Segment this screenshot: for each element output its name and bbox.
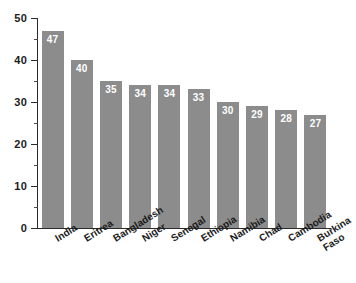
- x-axis-tick-label: Eritrea: [82, 233, 91, 244]
- x-axis-category-labels: IndiaEritreaBangladeshNigerSenegalEthiop…: [38, 231, 330, 283]
- bar-slot: 47: [38, 18, 67, 228]
- bar[interactable]: 34: [158, 85, 180, 228]
- y-axis-tick-major: [31, 186, 38, 187]
- x-axis-tick-label-line: Faso: [322, 242, 331, 253]
- bar-slot: 33: [184, 18, 213, 228]
- bar-value-label: 34: [164, 89, 176, 99]
- y-axis-tick-label: 0: [21, 222, 27, 234]
- bar-value-label: 33: [193, 93, 205, 103]
- bar-slot: 40: [67, 18, 96, 228]
- bar-slot: 30: [213, 18, 242, 228]
- bar[interactable]: 30: [217, 102, 239, 228]
- bar-value-label: 29: [251, 110, 263, 120]
- bar-slot: 28: [272, 18, 301, 228]
- bar-value-label: 30: [222, 106, 234, 116]
- x-axis-tick-label: Niger: [141, 233, 150, 244]
- y-axis-tick-major: [31, 60, 38, 61]
- x-axis-tick-label: Senegal: [170, 233, 179, 244]
- x-axis-tick-label: India: [53, 233, 62, 244]
- bar-value-label: 27: [310, 119, 322, 129]
- y-axis-tick-label: 40: [14, 54, 27, 66]
- y-axis-tick-label: 30: [14, 96, 27, 108]
- bar[interactable]: 35: [100, 81, 122, 228]
- x-axis-tick-label: Ethiopia: [199, 233, 208, 244]
- y-axis-tick-major: [31, 102, 38, 103]
- y-axis-tick-label: 10: [14, 180, 27, 192]
- bar-slot: 34: [126, 18, 155, 228]
- bar-series: 47403534343330292827: [38, 18, 330, 228]
- y-axis-tick-major: [31, 18, 38, 19]
- bar-slot: 35: [96, 18, 125, 228]
- bar-value-label: 40: [76, 64, 88, 74]
- bar[interactable]: 40: [71, 60, 93, 228]
- x-axis-tick-label: Namibia: [228, 233, 237, 244]
- x-axis-tick-label: Cambodia: [287, 233, 296, 244]
- x-axis-tick-label: BurkinaFaso: [316, 233, 331, 253]
- y-axis-tick-label: 50: [14, 12, 27, 24]
- bar-slot: 29: [242, 18, 271, 228]
- y-axis-tick-label: 20: [14, 138, 27, 150]
- bar-value-label: 47: [47, 35, 59, 45]
- bar-value-label: 35: [105, 85, 117, 95]
- x-axis-tick-label: Chad: [258, 233, 267, 244]
- bar[interactable]: 33: [188, 89, 210, 228]
- bar-value-label: 28: [280, 114, 292, 124]
- x-axis-tick-label: Bangladesh: [112, 233, 121, 244]
- y-axis-tick-major: [31, 228, 38, 229]
- bar-value-label: 34: [134, 89, 146, 99]
- bar[interactable]: 29: [246, 106, 268, 228]
- bar[interactable]: 34: [129, 85, 151, 228]
- bar-slot: 34: [155, 18, 184, 228]
- bar[interactable]: 28: [275, 110, 297, 228]
- bar[interactable]: 47: [42, 31, 64, 228]
- y-axis-tick-major: [31, 144, 38, 145]
- bar-slot: 27: [301, 18, 330, 228]
- plot-area: 47403534343330292827: [38, 18, 330, 228]
